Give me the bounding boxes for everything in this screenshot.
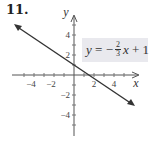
y-tick-label: −2	[60, 90, 70, 100]
equation-constant: + 1	[129, 42, 149, 58]
y-tick-label: 2	[66, 50, 71, 60]
y-tick-label: 4	[66, 30, 71, 40]
y-axis-label: y	[62, 5, 69, 19]
x-tick-label: −2	[46, 79, 56, 89]
coordinate-plane: −4 −2 2 4 4 2 −2 −4 y x	[0, 0, 152, 147]
equation-label: y = − 2 3 x + 1	[86, 41, 149, 58]
y-tick-label: −4	[60, 110, 70, 120]
equation-equals: =	[92, 42, 106, 58]
x-tick-label: 4	[112, 79, 117, 89]
equation-sign: −	[106, 42, 113, 58]
x-tick-label: −4	[26, 79, 36, 89]
line-arrow-lower-right-icon	[127, 99, 135, 106]
fraction-numerator: 2	[116, 41, 120, 49]
x-axis-label: x	[132, 76, 139, 90]
fraction-denominator: 3	[116, 50, 120, 58]
equation-fraction: 2 3	[115, 41, 121, 58]
x-tick-label: 2	[92, 79, 97, 89]
